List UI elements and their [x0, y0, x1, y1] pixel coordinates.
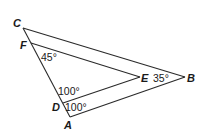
- label-F: F: [20, 39, 27, 51]
- angle-label-B: 35°: [153, 72, 169, 84]
- label-E: E: [141, 72, 149, 84]
- label-A: A: [63, 119, 72, 131]
- label-C: C: [13, 17, 22, 29]
- segment-CA: [23, 28, 70, 117]
- label-B: B: [187, 72, 195, 84]
- angle-label-D-lower: 100°: [65, 101, 87, 113]
- label-D: D: [52, 101, 60, 113]
- angle-label-F: 45°: [41, 51, 57, 63]
- angle-label-D-upper: 100°: [58, 85, 80, 97]
- geometry-diagram: C F D A E B 45° 100° 100° 35°: [0, 0, 203, 134]
